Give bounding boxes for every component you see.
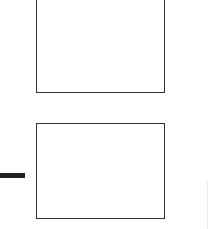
diagram-box-top xyxy=(36,0,165,93)
diagram-box-bottom xyxy=(36,123,165,219)
connector-line-left xyxy=(0,173,25,178)
right-edge-fragment xyxy=(207,180,208,229)
